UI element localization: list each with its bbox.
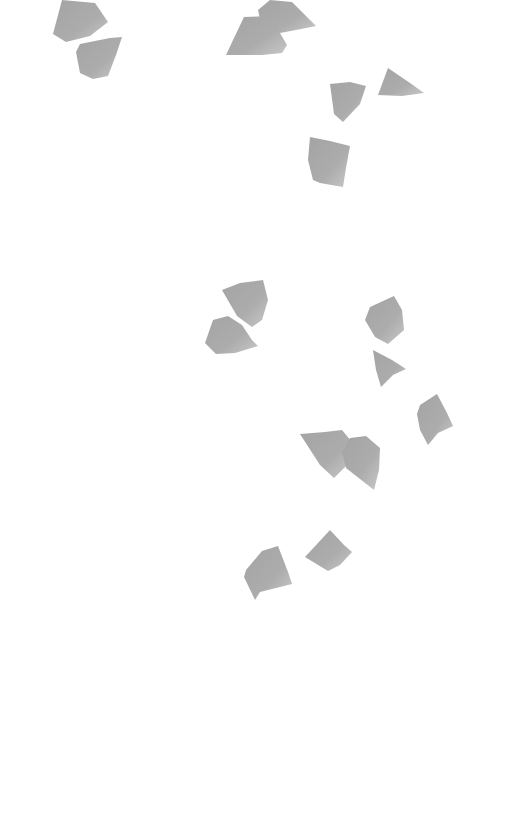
petal-7 [308, 137, 350, 187]
petal-scene [0, 0, 526, 836]
